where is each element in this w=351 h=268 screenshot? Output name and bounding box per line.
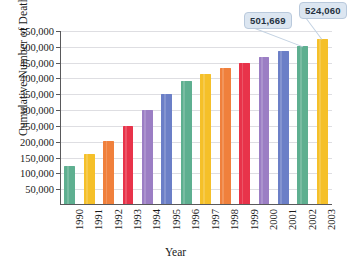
x-axis-tick-label-1993: 1993 xyxy=(132,209,143,230)
y-axis-tick-label: 50,000 xyxy=(25,184,54,195)
x-axis-tick-label-1992: 1992 xyxy=(113,209,124,230)
y-axis-tick-label: 100,000 xyxy=(20,168,54,179)
y-axis-tick-label: 300,000 xyxy=(20,105,54,116)
callout-label-2002: 501,669 xyxy=(244,12,292,29)
x-axis-tick-label-1999: 1999 xyxy=(249,209,260,230)
x-axis-tick-label-1997: 1997 xyxy=(210,209,221,230)
x-axis-tick-label-2000: 2000 xyxy=(268,209,279,230)
plot-frame xyxy=(60,31,332,205)
y-axis-tick-label: 550,000 xyxy=(20,26,54,37)
x-axis-tick-label-2002: 2002 xyxy=(307,209,318,230)
y-axis-tick-label: 450,000 xyxy=(20,57,54,68)
bar-chart-figure: Cumulative Number of Deaths Year 50,0001… xyxy=(0,0,351,268)
y-axis-tick-label: 150,000 xyxy=(20,152,54,163)
x-axis-tick-label-1996: 1996 xyxy=(190,209,201,230)
x-axis-tick-label-2001: 2001 xyxy=(287,209,298,230)
callout-label-2003: 524,060 xyxy=(299,2,347,19)
x-axis-tick-label-1991: 1991 xyxy=(93,209,104,230)
y-axis-tick-label: 200,000 xyxy=(20,136,54,147)
x-axis-tick-label-1990: 1990 xyxy=(74,209,85,230)
y-axis-tick-label: 400,000 xyxy=(20,73,54,84)
x-axis-tick-label-1998: 1998 xyxy=(229,209,240,230)
y-axis-tick-label: 350,000 xyxy=(20,89,54,100)
y-axis-tick-label: 250,000 xyxy=(20,120,54,131)
plot-area: 50,000100,000150,000200,000250,000300,00… xyxy=(60,31,332,205)
y-axis-tick-label: 500,000 xyxy=(20,41,54,52)
x-axis-title: Year xyxy=(0,246,351,258)
x-axis-tick-label-1994: 1994 xyxy=(151,209,162,230)
x-axis-tick-label-2003: 2003 xyxy=(326,209,337,230)
x-axis-tick-label-1995: 1995 xyxy=(171,209,182,230)
